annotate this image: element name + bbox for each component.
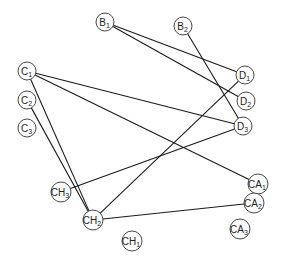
node-label-subscript: 1 [28, 71, 32, 78]
node-label-base: CA [230, 224, 244, 235]
node-d2: D2 [237, 92, 255, 110]
node-ca3: CA3 [230, 219, 250, 239]
node-c2: C2 [18, 91, 36, 109]
node-label-base: D [237, 121, 244, 132]
node-label-subscript: 3 [65, 192, 69, 199]
node-ca1: CA1 [248, 174, 268, 194]
node-label-subscript: 2 [258, 203, 262, 210]
node-label-subscript: 1 [262, 184, 266, 191]
edge-c1-ca1 [35, 75, 249, 180]
node-label-base: C [21, 95, 28, 106]
node-label-subscript: 1 [106, 22, 110, 29]
node-label-base: D [239, 70, 246, 81]
node-ch2: CH2 [83, 210, 103, 230]
node-label-subscript: 1 [136, 241, 140, 248]
node-label-subscript: 3 [28, 128, 32, 135]
node-c1: C1 [18, 62, 36, 80]
node-ch3: CH3 [51, 182, 71, 202]
node-label-base: D [240, 96, 247, 107]
node-label-subscript: 2 [28, 100, 32, 107]
nodes-layer: B1B2C1C2C3D1D2D3CH3CH2CH1CA1CA2CA3 [18, 13, 268, 251]
edge-ch2-d1 [100, 81, 238, 213]
edge-ch2-ca2 [103, 204, 244, 219]
node-label-subscript: 3 [244, 126, 248, 133]
node-b2: B2 [174, 17, 192, 35]
node-label-subscript: 2 [97, 220, 101, 227]
node-label-subscript: 2 [184, 26, 188, 33]
node-label-subscript: 1 [246, 75, 250, 82]
edge-c1-d3 [36, 73, 235, 124]
graph-diagram: B1B2C1C2C3D1D2D3CH3CH2CH1CA1CA2CA3 [0, 0, 282, 263]
node-b1: B1 [96, 13, 114, 31]
node-label-subscript: 3 [244, 229, 248, 236]
node-c3: C3 [18, 119, 36, 137]
node-d1: D1 [236, 66, 254, 84]
node-label-subscript: 2 [247, 101, 251, 108]
node-label-base: C [21, 123, 28, 134]
node-ca2: CA2 [244, 193, 264, 213]
node-label-base: CA [248, 179, 262, 190]
edge-b1-d1 [113, 25, 236, 72]
node-label-base: CA [244, 198, 258, 209]
node-ch1: CH1 [122, 231, 142, 251]
node-label-base: C [21, 66, 28, 77]
node-label-base: CH [83, 215, 97, 226]
node-d3: D3 [234, 117, 252, 135]
edge-ch3-d3 [70, 129, 234, 189]
node-label-base: CH [51, 187, 65, 198]
node-label-base: CH [122, 236, 136, 247]
